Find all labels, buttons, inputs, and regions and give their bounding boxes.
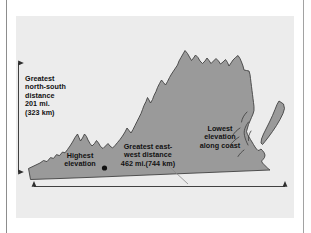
label-highest-elevation: Highest elevation	[57, 152, 103, 169]
label-greatest-north-south-distance: Greatest north-south distance 201 mi. (3…	[25, 75, 66, 117]
label-lowest-elevation-along-coast: Lowest elevation along coast	[196, 125, 244, 150]
eastern-shore-peninsula	[261, 101, 285, 145]
figure-root: Greatest north-south distance 201 mi. (3…	[0, 0, 311, 233]
label-greatest-east-west-distance: Greatest east- west distance 462 mi.(744…	[113, 143, 183, 168]
